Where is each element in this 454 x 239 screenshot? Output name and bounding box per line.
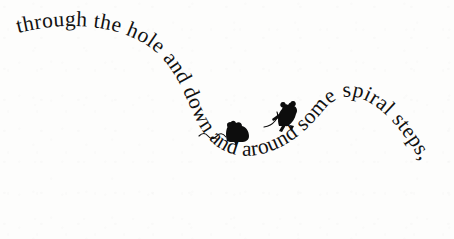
mouse-left-ear-icon (227, 122, 233, 128)
illustration-canvas: through the hole and down and around som… (0, 0, 454, 239)
mouse-right-ear-right-icon (290, 101, 296, 107)
curved-sentence: through the hole and down and around som… (14, 7, 438, 164)
illustration-page: through the hole and down and around som… (0, 0, 454, 239)
mouse-right-ear-left-icon (280, 102, 286, 108)
curved-sentence-textpath: through the hole and down and around som… (14, 7, 438, 164)
